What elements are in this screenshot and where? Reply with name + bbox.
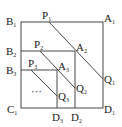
label-B2: B2 [6, 45, 16, 58]
label-D2: D2 [71, 111, 82, 124]
label-P1: P1 [42, 9, 51, 22]
ellipsis: ··· [31, 85, 42, 97]
label-Q1: Q1 [104, 73, 115, 86]
label-Q3: Q3 [58, 90, 69, 103]
square-sequence-diagram: B1 P1 A1 B2 P2 A2 B3 P3 A3 Q1 Q2 Q3 ··· … [0, 0, 122, 127]
label-P3: P3 [28, 57, 37, 70]
label-Q2: Q2 [76, 82, 87, 95]
label-B3: B3 [6, 64, 16, 77]
label-D3: D3 [52, 111, 63, 124]
label-B1: B1 [6, 15, 16, 28]
label-A2: A2 [76, 41, 87, 54]
label-P2: P2 [34, 38, 43, 51]
label-C1: C1 [7, 103, 17, 116]
label-A1: A1 [104, 12, 115, 25]
label-D1: D1 [104, 103, 115, 116]
label-A3: A3 [58, 60, 69, 73]
